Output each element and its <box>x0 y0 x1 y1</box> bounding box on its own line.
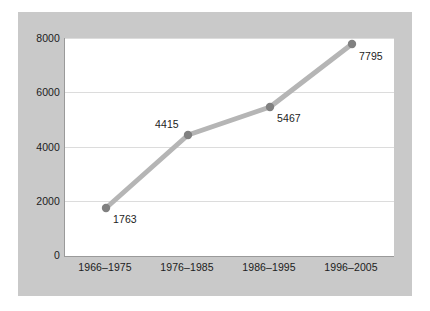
data-point-marker-2 <box>184 131 192 139</box>
x-tick-label-4: 1996–2005 <box>324 261 377 273</box>
y-tick-label-8000: 8000 <box>20 33 60 44</box>
chart-panel: 8000 6000 4000 2000 0 1966–1975 1976–198… <box>18 12 412 296</box>
gridline-8000 <box>65 38 394 39</box>
data-point-label-3: 5467 <box>277 113 301 124</box>
y-tick-label-0: 0 <box>20 250 60 261</box>
gridline-2000 <box>65 201 394 202</box>
y-tick-label-6000: 6000 <box>20 87 60 98</box>
series-line <box>106 44 352 208</box>
data-point-label-4: 7795 <box>359 51 383 62</box>
data-point-marker-4 <box>348 40 356 48</box>
plot-area: 1763 4415 5467 7795 <box>64 38 394 257</box>
data-point-label-1: 1763 <box>113 214 137 225</box>
gridline-6000 <box>65 92 394 93</box>
data-point-label-2: 4415 <box>155 119 179 130</box>
y-tick-label-2000: 2000 <box>20 196 60 207</box>
y-tick-label-4000: 4000 <box>20 142 60 153</box>
data-point-marker-1 <box>102 204 110 212</box>
data-point-marker-3 <box>266 103 274 111</box>
x-tick-label-1: 1966–1975 <box>78 261 131 273</box>
x-tick-label-3: 1986–1995 <box>242 261 295 273</box>
gridline-4000 <box>65 147 394 148</box>
x-tick-label-2: 1976–1985 <box>160 261 213 273</box>
chart-figure: 8000 6000 4000 2000 0 1966–1975 1976–198… <box>0 0 430 311</box>
